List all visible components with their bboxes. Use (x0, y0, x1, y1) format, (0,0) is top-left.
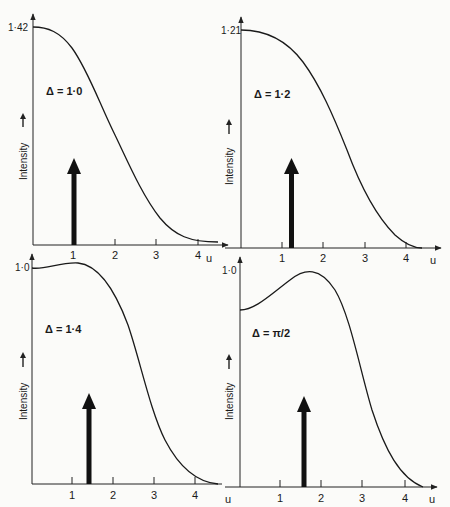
x-axis-label: u (430, 254, 436, 266)
x-tick-label: 3 (153, 249, 159, 261)
x-tick-label: 3 (362, 252, 368, 264)
peak-value-label: 1·21 (221, 25, 241, 36)
x-axis-label: u (206, 252, 212, 264)
position-arrow-icon (284, 158, 299, 248)
y-axis-label: Intensity (224, 383, 235, 420)
x-tick-label: 1 (70, 249, 76, 261)
x-tick-label: 1 (69, 489, 75, 501)
delta-annotation: Δ = 1·2 (254, 88, 290, 100)
y-label-arrow-icon (20, 113, 26, 127)
y-label-arrow-icon (226, 119, 232, 134)
x-tick-label: 2 (110, 489, 116, 501)
peak-value-label: 1·42 (8, 22, 28, 33)
x-axis-label: u (429, 493, 435, 505)
position-arrow-icon (67, 158, 81, 245)
panel-delta-1-0: 1 2 3 4 u 1·42 Δ = 1·0 Intensity (8, 14, 228, 264)
svg-text:Intensity: Intensity (18, 143, 29, 180)
y-axis-label: Intensity (18, 383, 29, 420)
delta-annotation: Δ = π/2 (252, 327, 290, 339)
svg-text:Intensity: Intensity (18, 383, 29, 420)
position-arrow-icon (82, 393, 96, 484)
x-tick-label: 1 (277, 492, 283, 504)
peak-value-label: 1·0 (222, 265, 237, 276)
x-tick-label: 3 (359, 492, 365, 504)
x-ticks (115, 239, 198, 245)
x-tick-label: 4 (403, 252, 409, 264)
y-axis-label: Intensity (224, 148, 235, 185)
svg-text:Intensity: Intensity (224, 148, 235, 185)
y-label-arrow-icon (20, 352, 26, 367)
x-tick-label: 1 (279, 252, 285, 264)
x-tick-label: 4 (195, 249, 201, 261)
delta-annotation: Δ = 1·0 (46, 85, 82, 97)
x-axis-label-left: u (225, 493, 231, 505)
x-tick-label: 3 (151, 489, 157, 501)
peak-value-label: 1·0 (15, 262, 30, 273)
x-tick-label: 2 (318, 492, 324, 504)
intensity-curve (32, 263, 218, 484)
x-tick-label: 2 (320, 252, 326, 264)
panel-delta-pi-over-2: 1 2 3 4 u u 1·0 Δ = π/2 Intensity (222, 257, 437, 505)
intensity-curve (241, 30, 422, 248)
figure: 1 2 3 4 u 1·42 Δ = 1·0 Intensity 1 2 (0, 0, 450, 507)
x-tick-label: 4 (192, 489, 198, 501)
intensity-curve (240, 272, 423, 487)
x-ticks (280, 480, 405, 487)
x-ticks (282, 242, 406, 248)
x-tick-label: 2 (112, 249, 118, 261)
panel-delta-1-2: 1 2 3 4 u 1·21 Δ = 1·2 Intensity (221, 17, 441, 266)
intensity-curve (33, 27, 218, 242)
position-arrow-icon (297, 396, 311, 487)
panel-delta-1-4: 1 2 3 4 1·0 Δ = 1·4 Intensity (15, 254, 222, 501)
x-tick-label: 4 (402, 492, 408, 504)
y-axis-label: Intensity (18, 143, 29, 180)
y-label-arrow-icon (226, 354, 232, 369)
svg-text:Intensity: Intensity (224, 383, 235, 420)
delta-annotation: Δ = 1·4 (45, 323, 82, 335)
